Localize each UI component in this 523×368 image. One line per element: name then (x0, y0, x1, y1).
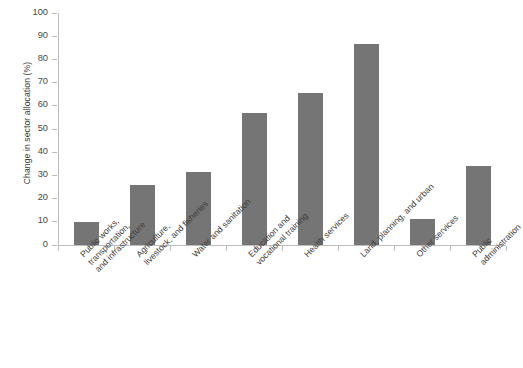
x-tick-mark (506, 246, 507, 251)
x-tick-mark (394, 246, 395, 251)
x-tick-mark (226, 246, 227, 251)
bar (354, 44, 379, 245)
x-tick-mark (450, 246, 451, 251)
bars-container (0, 13, 506, 245)
bar (242, 113, 267, 245)
x-tick-mark (338, 246, 339, 251)
bar (466, 166, 491, 245)
x-tick-mark (58, 246, 59, 251)
x-tick-mark (170, 246, 171, 251)
x-tick-mark (282, 246, 283, 251)
